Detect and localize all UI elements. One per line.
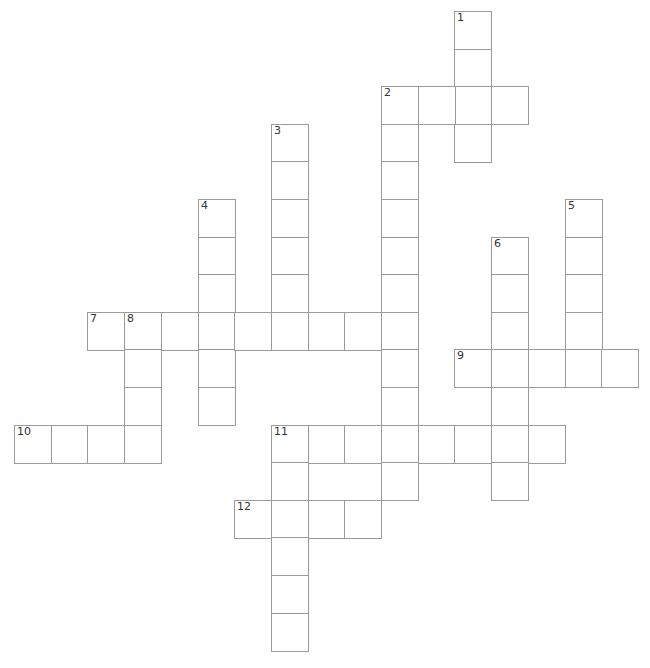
crossword-cell[interactable] (198, 387, 236, 426)
crossword-cell[interactable] (491, 387, 529, 426)
crossword-cell[interactable] (271, 575, 309, 614)
crossword-cell[interactable] (565, 274, 603, 313)
crossword-cell[interactable] (198, 237, 236, 276)
crossword-cell[interactable] (491, 274, 529, 313)
crossword-cell[interactable] (454, 425, 492, 464)
crossword-cell[interactable] (454, 49, 492, 88)
crossword-cell[interactable] (161, 312, 199, 351)
clue-number: 8 (127, 313, 134, 325)
crossword-cell[interactable] (601, 349, 639, 388)
crossword-cell[interactable] (381, 462, 419, 501)
crossword-cell[interactable] (234, 312, 272, 351)
crossword-grid: 123456789101112 (0, 0, 650, 668)
crossword-cell[interactable] (124, 349, 162, 388)
crossword-cell[interactable]: 10 (14, 425, 52, 464)
clue-number: 6 (494, 238, 501, 250)
crossword-cell[interactable] (454, 124, 492, 163)
clue-number: 5 (568, 200, 575, 212)
clue-number: 10 (17, 426, 31, 438)
clue-number: 7 (90, 313, 97, 325)
crossword-cell[interactable] (491, 425, 529, 464)
crossword-cell[interactable] (271, 537, 309, 576)
clue-number: 12 (237, 501, 251, 513)
crossword-cell[interactable] (528, 349, 566, 388)
clue-number: 2 (384, 87, 391, 99)
clue-number: 3 (274, 125, 281, 137)
crossword-cell[interactable]: 3 (271, 124, 309, 163)
crossword-cell[interactable] (381, 425, 419, 464)
crossword-cell[interactable]: 6 (491, 237, 529, 276)
crossword-cell[interactable] (308, 500, 346, 539)
crossword-cell[interactable] (565, 312, 603, 351)
crossword-cell[interactable] (198, 274, 236, 313)
crossword-cell[interactable] (381, 349, 419, 388)
crossword-cell[interactable] (491, 349, 529, 388)
crossword-cell[interactable] (381, 199, 419, 238)
crossword-cell[interactable] (418, 425, 456, 464)
crossword-cell[interactable] (124, 425, 162, 464)
crossword-cell[interactable] (87, 425, 125, 464)
crossword-cell[interactable] (198, 312, 236, 351)
crossword-cell[interactable] (198, 349, 236, 388)
crossword-cell[interactable] (381, 237, 419, 276)
crossword-cell[interactable] (565, 237, 603, 276)
crossword-cell[interactable] (381, 161, 419, 200)
crossword-cell[interactable] (344, 500, 382, 539)
crossword-cell[interactable] (308, 425, 346, 464)
crossword-cell[interactable] (454, 86, 492, 125)
crossword-cell[interactable]: 1 (454, 11, 492, 50)
crossword-cell[interactable]: 2 (381, 86, 419, 125)
crossword-cell[interactable] (491, 462, 529, 501)
crossword-cell[interactable] (344, 312, 382, 351)
crossword-cell[interactable]: 8 (124, 312, 162, 351)
crossword-cell[interactable] (271, 199, 309, 238)
crossword-cell[interactable] (491, 86, 529, 125)
crossword-cell[interactable] (528, 425, 566, 464)
crossword-cell[interactable] (381, 124, 419, 163)
crossword-cell[interactable] (271, 462, 309, 501)
clue-number: 4 (201, 200, 208, 212)
crossword-cell[interactable] (381, 312, 419, 351)
crossword-cell[interactable]: 4 (198, 199, 236, 238)
crossword-cell[interactable] (271, 500, 309, 539)
crossword-cell[interactable]: 12 (234, 500, 272, 539)
crossword-cell[interactable] (418, 86, 456, 125)
crossword-cell[interactable]: 5 (565, 199, 603, 238)
crossword-cell[interactable] (271, 613, 309, 652)
crossword-cell[interactable]: 11 (271, 425, 309, 464)
crossword-cell[interactable] (124, 387, 162, 426)
clue-number: 11 (274, 426, 288, 438)
crossword-cell[interactable] (565, 349, 603, 388)
crossword-cell[interactable] (271, 161, 309, 200)
crossword-cell[interactable] (381, 274, 419, 313)
crossword-cell[interactable] (271, 237, 309, 276)
clue-number: 9 (457, 350, 464, 362)
crossword-cell[interactable]: 9 (454, 349, 492, 388)
crossword-cell[interactable] (491, 312, 529, 351)
crossword-cell[interactable] (271, 312, 309, 351)
clue-number: 1 (457, 12, 464, 24)
crossword-cell[interactable] (381, 387, 419, 426)
crossword-cell[interactable]: 7 (87, 312, 125, 351)
crossword-cell[interactable] (344, 425, 382, 464)
crossword-cell[interactable] (271, 274, 309, 313)
crossword-cell[interactable] (51, 425, 89, 464)
crossword-cell[interactable] (308, 312, 346, 351)
